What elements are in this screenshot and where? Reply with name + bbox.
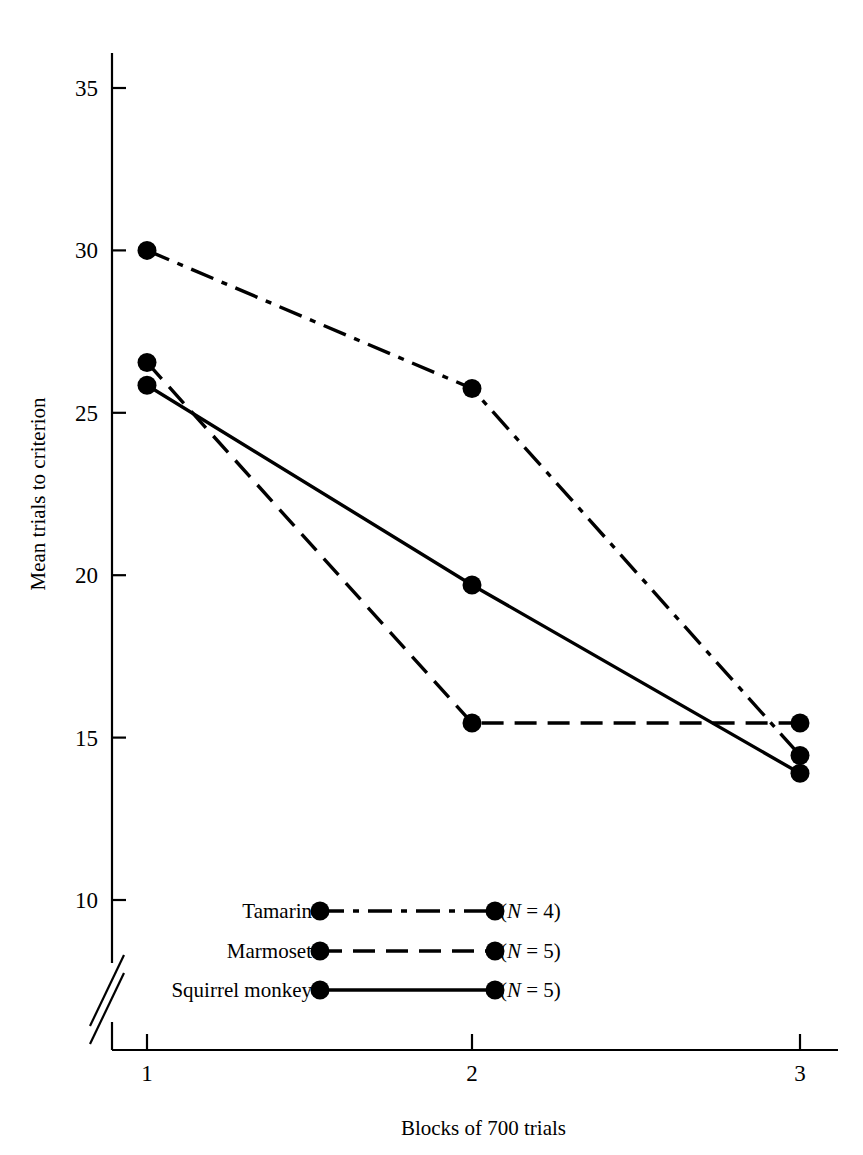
x-axis-tick-label: 2 (466, 1061, 478, 1086)
legend: Tamarin(N = 4)Marmoset(N = 5)Squirrel mo… (171, 899, 560, 1002)
data-point-marker (138, 376, 157, 395)
series-layer (147, 250, 800, 773)
x-axis-title: Blocks of 700 trials (401, 1116, 566, 1140)
legend-marker-start (311, 902, 330, 921)
data-point-marker (463, 575, 482, 594)
legend-item: Marmoset(N = 5) (227, 939, 561, 963)
legend-item: Tamarin(N = 4) (242, 899, 561, 923)
ticks-layer: 101520253035123 (75, 76, 806, 1086)
y-axis-break-mark (90, 955, 124, 1026)
series-line-marmoset (147, 362, 800, 723)
y-axis-tick-label: 10 (75, 888, 98, 913)
data-point-marker (463, 379, 482, 398)
y-axis-tick-label: 25 (75, 401, 98, 426)
y-axis-tick-label: 30 (75, 238, 98, 263)
y-axis-title: Mean trials to criterion (26, 397, 50, 591)
legend-label: Marmoset (227, 939, 312, 963)
data-point-marker (138, 353, 157, 372)
y-axis-tick-label: 15 (75, 726, 98, 751)
data-point-marker (791, 764, 810, 783)
data-point-marker (791, 713, 810, 732)
legend-marker-start (311, 942, 330, 961)
line-chart: 101520253035123 Blocks of 700 trialsMean… (0, 0, 863, 1155)
legend-marker-start (311, 981, 330, 1000)
legend-item: Squirrel monkey(N = 5) (171, 978, 560, 1002)
data-point-marker (463, 713, 482, 732)
y-axis-tick-label: 20 (75, 563, 98, 588)
legend-sample-size: (N = 5) (500, 978, 561, 1002)
axes-layer (90, 53, 838, 1050)
markers-layer (138, 241, 810, 783)
figure-container: 101520253035123 Blocks of 700 trialsMean… (0, 0, 863, 1155)
data-point-marker (138, 241, 157, 260)
legend-label: Tamarin (242, 899, 312, 923)
legend-sample-size: (N = 5) (500, 939, 561, 963)
y-axis-tick-label: 35 (75, 76, 98, 101)
x-axis-tick-label: 1 (141, 1061, 153, 1086)
legend-sample-size: (N = 4) (500, 899, 561, 923)
axis-labels-layer: Blocks of 700 trialsMean trials to crite… (26, 397, 566, 1140)
data-point-marker (791, 746, 810, 765)
x-axis-tick-label: 3 (794, 1061, 806, 1086)
y-axis-break-mark-2 (90, 973, 124, 1044)
series-line-tamarin (147, 250, 800, 755)
legend-label: Squirrel monkey (171, 978, 312, 1002)
